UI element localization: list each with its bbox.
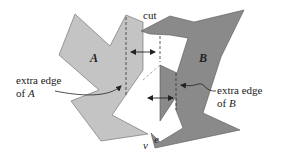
extra-edge-b-line1: extra edge xyxy=(217,84,263,96)
polygon-b-label: B xyxy=(198,51,207,65)
diagram-canvas: A B cut extra edge of A extra edge of B … xyxy=(0,0,283,162)
edge-e-label: e xyxy=(154,133,159,145)
extra-edge-b-line2: of B xyxy=(217,97,236,109)
cut-diagonal xyxy=(143,65,160,80)
extra-edge-a-line1: extra edge xyxy=(16,74,62,86)
polygon-a xyxy=(59,14,148,141)
cut-label: cut xyxy=(143,9,156,21)
extra-edge-a-line2: of A xyxy=(16,87,35,99)
polygon-b xyxy=(141,10,244,148)
polygon-a-label: A xyxy=(89,51,98,65)
polygon-cut-diagram: A B cut extra edge of A extra edge of B … xyxy=(0,0,283,162)
vertex-v-label: v xyxy=(143,139,148,151)
